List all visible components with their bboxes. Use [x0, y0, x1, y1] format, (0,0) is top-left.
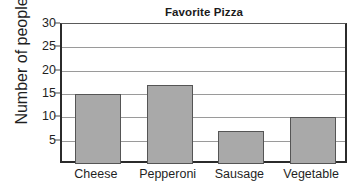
y-tick-label: 25 [10, 39, 56, 53]
y-tick-label: 5 [10, 133, 56, 147]
bar [218, 131, 264, 164]
x-tick-label: Vegetable [275, 167, 347, 181]
bar-chart: Favorite Pizza Number of people 51015202… [0, 0, 363, 194]
y-tick-label: 15 [10, 86, 56, 100]
y-tick-mark [54, 139, 60, 140]
y-axis-tick-labels: 51015202530 [8, 23, 56, 163]
x-tick-label: Cheese [60, 167, 132, 181]
y-tick-mark [54, 46, 60, 47]
x-axis-tick-labels: CheesePepperoniSausageVegetable [60, 167, 347, 187]
y-tick-label: 20 [10, 63, 56, 77]
y-tick-label: 30 [10, 16, 56, 30]
gridline [62, 47, 345, 48]
y-tick-label: 10 [10, 109, 56, 123]
x-tick-label: Pepperoni [132, 167, 204, 181]
bar [75, 94, 121, 164]
y-tick-mark [54, 69, 60, 70]
chart-title: Favorite Pizza [60, 6, 348, 18]
y-tick-mark [54, 116, 60, 117]
x-tick-label: Sausage [204, 167, 276, 181]
bar [290, 117, 336, 164]
gridline [62, 71, 345, 72]
bar [147, 85, 193, 164]
plot-area [60, 23, 347, 163]
y-tick-mark [54, 23, 60, 24]
y-tick-mark [54, 93, 60, 94]
